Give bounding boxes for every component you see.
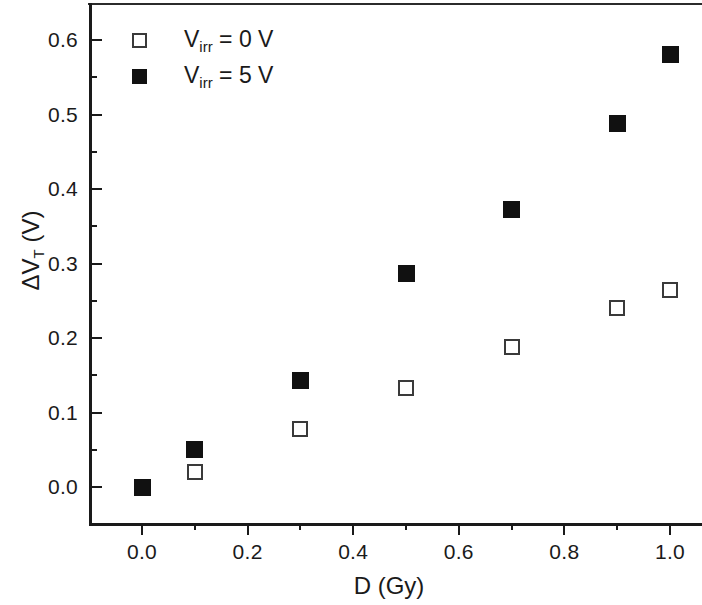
- y-axis-title-subscript: T: [30, 249, 47, 258]
- x-axis-minor-tick: [405, 524, 407, 530]
- y-axis-major-tick: [91, 114, 102, 116]
- y-axis-tick-label-wrap: 0.1: [32, 402, 78, 424]
- y-axis-line: [89, 3, 92, 526]
- legend-entry-virr-5v: Virr = 5 V: [126, 58, 386, 94]
- y-axis-tick-label-wrap: 0.5: [32, 104, 78, 126]
- x-axis-major-tick: [458, 524, 460, 535]
- x-axis-minor-tick: [194, 524, 196, 530]
- x-axis-tick-label: 0.6: [429, 541, 489, 562]
- y-axis-title-suffix: (V): [17, 211, 44, 250]
- data-point-filled-square: [398, 265, 415, 282]
- x-axis-major-tick: [352, 524, 354, 535]
- data-point-filled-square: [662, 46, 679, 63]
- x-axis-minor-tick: [299, 524, 301, 530]
- y-axis-tick-label: 0.6: [32, 29, 78, 50]
- x-axis-major-tick: [563, 524, 565, 535]
- legend-subscript-irr: irr: [199, 38, 212, 55]
- x-axis-minor-tick: [616, 524, 618, 530]
- y-axis-tick-label-wrap: 0.0: [32, 476, 78, 498]
- data-point-filled-square: [503, 201, 520, 218]
- y-axis-major-tick: [91, 188, 102, 190]
- x-axis-line: [89, 523, 702, 526]
- x-axis-major-tick: [669, 524, 671, 535]
- data-point-open-square: [609, 300, 625, 316]
- x-axis-major-tick: [141, 524, 143, 535]
- x-axis-minor-tick: [511, 524, 513, 530]
- chart-figure: 0.00.10.20.30.40.50.6 0.00.20.40.60.81.0…: [0, 0, 702, 605]
- y-axis-minor-tick: [91, 76, 97, 78]
- y-axis-major-tick: [91, 412, 102, 414]
- data-point-filled-square: [292, 372, 309, 389]
- data-point-open-square: [292, 421, 308, 437]
- data-point-open-square: [662, 282, 678, 298]
- x-axis-tick-label: 1.0: [640, 541, 700, 562]
- legend-marker-open-square: [126, 33, 184, 48]
- y-axis-major-tick: [91, 337, 102, 339]
- legend-label-virr-0v: Virr = 0 V: [184, 27, 273, 54]
- y-axis-minor-tick: [91, 374, 97, 376]
- x-axis-tick-label: 0.2: [218, 541, 278, 562]
- x-axis-tick-label: 0.0: [112, 541, 172, 562]
- x-axis-tick-label: 0.4: [323, 541, 383, 562]
- chart-legend: Virr = 0 V Virr = 5 V: [126, 22, 386, 94]
- legend-marker-filled-square: [126, 69, 184, 84]
- y-axis-major-tick: [91, 263, 102, 265]
- y-axis-major-tick: [91, 39, 102, 41]
- y-axis-minor-tick: [91, 449, 97, 451]
- y-axis-minor-tick: [91, 523, 97, 525]
- y-axis-minor-tick: [91, 151, 97, 153]
- x-axis-tick-label: 0.8: [534, 541, 594, 562]
- data-point-open-square: [504, 339, 520, 355]
- y-axis-tick-label: 0.0: [32, 476, 78, 497]
- x-axis-major-tick: [247, 524, 249, 535]
- legend-subscript-irr: irr: [199, 74, 212, 91]
- y-axis-minor-tick: [91, 300, 97, 302]
- y-axis-major-tick: [91, 486, 102, 488]
- y-axis-title: ΔVT (V): [18, 171, 47, 331]
- y-axis-tick-label-wrap: 0.6: [32, 29, 78, 51]
- data-point-filled-square: [186, 441, 203, 458]
- legend-label-virr-5v: Virr = 5 V: [184, 63, 273, 90]
- x-axis-title: D (Gy): [89, 573, 689, 599]
- y-axis-tick-label: 0.5: [32, 104, 78, 125]
- data-point-open-square: [398, 380, 414, 396]
- y-axis-minor-tick: [91, 225, 97, 227]
- legend-entry-virr-0v: Virr = 0 V: [126, 22, 386, 58]
- data-point-open-square: [187, 464, 203, 480]
- y-axis-tick-label: 0.1: [32, 402, 78, 423]
- y-axis-title-prefix: ΔV: [17, 258, 44, 290]
- data-point-filled-square: [134, 479, 151, 496]
- data-point-filled-square: [609, 115, 626, 132]
- plot-top-border: [88, 3, 702, 5]
